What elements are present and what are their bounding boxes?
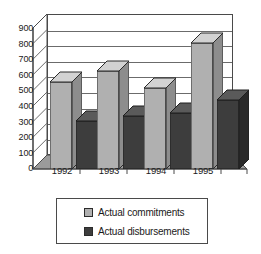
x-tick-1995: 1995 <box>186 166 220 176</box>
bar-1992-commitments <box>50 0 72 169</box>
light-gray-swatch-icon <box>84 208 93 217</box>
legend-item-commitments: Actual commitments <box>57 203 207 222</box>
bar-1995-disbursements <box>217 0 239 169</box>
bar-1993-commitments <box>97 0 119 169</box>
bar-group-container <box>0 0 261 190</box>
legend-item-disbursements: Actual disbursements <box>57 222 207 241</box>
x-tick-1993: 1993 <box>92 166 126 176</box>
bar-1992-disbursements <box>76 0 98 169</box>
legend-label-disbursements: Actual disbursements <box>98 226 190 237</box>
bar-1994-disbursements <box>170 0 192 169</box>
bar-1993-disbursements <box>123 0 145 169</box>
dark-gray-swatch-icon <box>84 227 93 236</box>
x-tick-1992: 1992 <box>45 166 79 176</box>
bar-chart: 900 800 700 600 500 400 300 200 100 0 <box>0 0 261 254</box>
plot-area: 900 800 700 600 500 400 300 200 100 0 <box>0 0 261 190</box>
bar-1994-commitments <box>144 0 166 169</box>
legend-label-commitments: Actual commitments <box>98 207 184 218</box>
x-axis-labels: 1992 1993 1994 1995 <box>0 166 261 182</box>
chart-legend: Actual commitments Actual disbursements <box>56 198 208 244</box>
bar-1995-commitments <box>191 0 213 169</box>
x-tick-1994: 1994 <box>139 166 173 176</box>
